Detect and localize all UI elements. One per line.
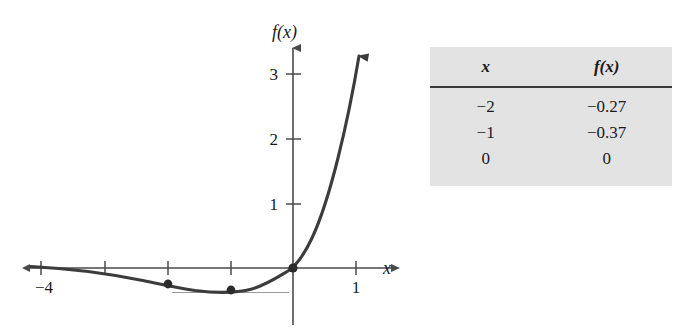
values-table: x f(x) −2 −0.27 −1 −0.37 0 0	[430, 47, 672, 172]
cell-x: 0	[430, 146, 541, 172]
cell-fx: −0.27	[541, 87, 672, 120]
data-point-origin	[288, 263, 297, 272]
cell-x: −2	[430, 87, 541, 120]
table-row: −2 −0.27	[430, 87, 672, 120]
data-point-x-neg1	[227, 286, 236, 295]
y-tick-label-3: 3	[270, 65, 279, 84]
function-graph-panel: f(x) x 3 2 1 −4 1	[0, 0, 420, 333]
values-table-panel: x f(x) −2 −0.27 −1 −0.37 0 0	[430, 47, 672, 186]
column-header-fx: f(x)	[541, 47, 672, 87]
x-tick-label-1: 1	[352, 278, 361, 297]
x-tick-label-neg4: −4	[35, 278, 54, 297]
x-axis-label: x	[382, 258, 391, 278]
function-graph-svg: f(x) x 3 2 1 −4 1	[0, 0, 420, 333]
values-table-head: x f(x)	[430, 47, 672, 87]
table-header-row: x f(x)	[430, 47, 672, 87]
table-row: 0 0	[430, 146, 672, 172]
function-curve	[31, 56, 359, 292]
y-axis-label: f(x)	[272, 22, 297, 43]
cell-fx: −0.37	[541, 120, 672, 146]
values-table-body: −2 −0.27 −1 −0.37 0 0	[430, 87, 672, 172]
y-tick-label-2: 2	[270, 130, 279, 149]
column-header-x: x	[430, 47, 541, 87]
y-tick-label-1: 1	[270, 195, 279, 214]
data-point-x-neg2	[164, 280, 173, 289]
table-row: −1 −0.37	[430, 120, 672, 146]
cell-x: −1	[430, 120, 541, 146]
figure-root: f(x) x 3 2 1 −4 1 x f(x) −2 −0.27	[0, 0, 683, 333]
cell-fx: 0	[541, 146, 672, 172]
